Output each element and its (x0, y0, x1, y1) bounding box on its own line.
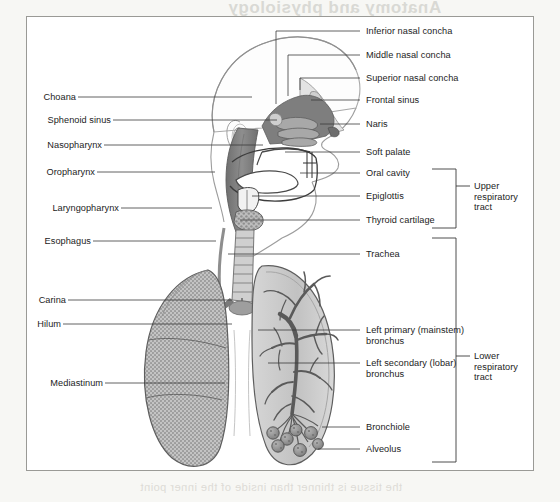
bracket-line-3: tract (474, 202, 492, 212)
label-bronchiole: Bronchiole (366, 422, 410, 433)
label-thyroid-cartilage: Thyroid cartilage (366, 215, 435, 226)
label-oropharynx: Oropharynx (28, 167, 95, 178)
bleed-through-text-bottom: the tissue is thinner than inside of the… (140, 481, 402, 493)
bracket-line-3: tract (474, 372, 492, 382)
label-trachea: Trachea (366, 249, 400, 260)
label-lower-respiratory-tract: Lower respiratory tract (474, 351, 528, 383)
label-hilum: Hilum (28, 319, 61, 330)
label-epiglottis: Epiglottis (366, 191, 404, 202)
bracket-line-2: respiratory (474, 192, 518, 202)
bracket-line-1: Lower (474, 351, 499, 361)
label-mediastinum: Mediastinum (28, 378, 103, 389)
label-upper-respiratory-tract: Upper respiratory tract (474, 181, 528, 213)
label-middle-nasal-concha: Middle nasal concha (366, 50, 451, 61)
label-superior-nasal-concha: Superior nasal concha (366, 73, 458, 84)
label-oral-cavity: Oral cavity (366, 168, 410, 179)
label-nasopharynx: Nasopharynx (28, 140, 102, 151)
label-line-1: Left secondary (lobar) (366, 358, 456, 368)
label-choana: Choana (28, 92, 76, 103)
label-carina: Carina (28, 295, 66, 306)
label-sphenoid-sinus: Sphenoid sinus (28, 115, 111, 126)
label-laryngopharynx: Laryngopharynx (28, 203, 119, 214)
label-frontal-sinus: Frontal sinus (366, 95, 419, 106)
label-soft-palate: Soft palate (366, 147, 410, 158)
bracket-line-1: Upper (474, 181, 499, 191)
diagram-frame (26, 16, 534, 471)
diagram-page: Anatomy and physiology of the respirator… (0, 0, 560, 502)
label-inferior-nasal-concha: Inferior nasal concha (366, 26, 452, 37)
label-esophagus: Esophagus (28, 236, 91, 247)
label-left-primary-bronchus: Left primary (mainstem) bronchus (366, 325, 474, 346)
label-alveolus: Alveolus (366, 444, 401, 455)
label-line-1: Left primary (mainstem) (366, 325, 464, 335)
label-line-2: bronchus (366, 336, 404, 346)
label-naris: Naris (366, 119, 388, 130)
label-left-secondary-bronchus: Left secondary (lobar) bronchus (366, 358, 474, 379)
bracket-line-2: respiratory (474, 362, 518, 372)
label-line-2: bronchus (366, 369, 404, 379)
